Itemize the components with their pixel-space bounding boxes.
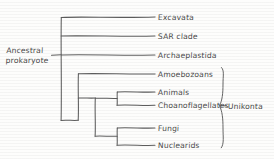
tree-branches-svg xyxy=(0,0,274,159)
tip-label-fungi: Fungi xyxy=(158,124,180,133)
tip-label-sar-clade: SAR clade xyxy=(158,32,198,41)
root-label: Ancestral prokaryote xyxy=(6,46,59,65)
tip-label-choanoflagellates: Choanoflagellates xyxy=(158,101,229,110)
clade-label-unikonta: Unikonta xyxy=(228,102,263,111)
tip-label-excavata: Excavata xyxy=(158,13,194,22)
tip-label-nuclearids: Nuclearids xyxy=(158,141,200,150)
phylogenetic-tree-diagram: Ancestral prokaryote Excavata SAR clade … xyxy=(0,0,274,159)
tip-label-animals: Animals xyxy=(158,88,190,97)
tip-label-archaeplastida: Archaeplastida xyxy=(158,51,217,60)
tip-label-amoebozoans: Amoebozoans xyxy=(158,70,214,79)
branch-excavata xyxy=(61,17,155,18)
